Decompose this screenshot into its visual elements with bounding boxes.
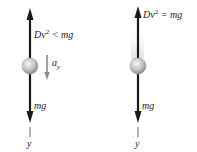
left-drag-base: Dv	[34, 29, 46, 40]
left-axis-label: y	[27, 139, 31, 149]
right-drag-relation: = mg	[158, 9, 182, 20]
left-drag-relation: < mg	[49, 29, 73, 40]
diagram-canvas	[0, 0, 197, 152]
right-weight-arrow	[135, 72, 142, 123]
left-drag-force-label: Dv2 < mg	[34, 29, 73, 40]
right-weight-label: mg	[142, 101, 154, 111]
left-accel-sub: y	[57, 63, 60, 71]
right-drag-base: Dv	[143, 9, 155, 20]
right-panel	[130, 6, 146, 137]
left-weight-label: mg	[34, 101, 46, 111]
left-drag-force-arrow	[27, 8, 34, 60]
left-accel-label: ay	[52, 58, 60, 71]
left-sphere	[22, 58, 38, 74]
left-weight-arrow	[27, 72, 34, 123]
right-drag-force-label: Dv2 = mg	[143, 9, 182, 20]
right-sphere	[130, 58, 146, 74]
left-acceleration-arrow	[44, 55, 49, 80]
right-axis-label: y	[135, 139, 139, 149]
